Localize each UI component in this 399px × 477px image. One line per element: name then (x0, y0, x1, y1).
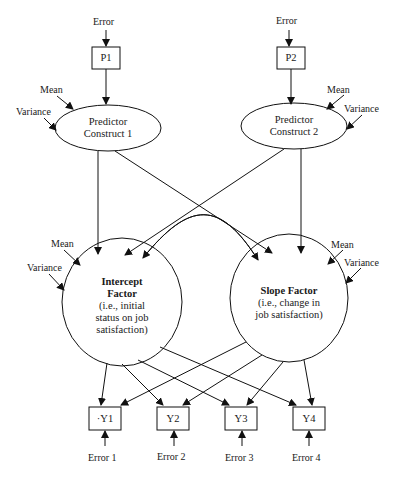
p1-error-label: Error (93, 16, 114, 27)
p2-error-label: Error (276, 15, 297, 26)
slope-factor: Slope Factor (i.e., change in job satisf… (234, 285, 344, 321)
pc2-variance-label: Variance (344, 103, 379, 114)
y3-label: Y3 (225, 413, 257, 425)
error-2-label: Error 2 (157, 451, 186, 462)
pc1-line2: Construct 1 (58, 128, 158, 140)
intercept-mean-label: Mean (51, 238, 74, 249)
slope-variance-label: Variance (344, 257, 379, 268)
intercept-title-1: Intercept (72, 276, 172, 288)
y2-label: Y2 (157, 413, 189, 425)
slope-desc-2: job satisfaction) (234, 309, 344, 321)
intercept-desc-2: status on job (72, 312, 172, 324)
p1-label: P1 (92, 52, 120, 64)
error-3-label: Error 3 (225, 452, 254, 463)
p2-label: P2 (277, 52, 305, 64)
slope-mean-label: Mean (331, 239, 354, 250)
intercept-title-2: Factor (72, 288, 172, 300)
pc2-line2: Construct 2 (244, 126, 344, 138)
slope-title: Slope Factor (234, 285, 344, 297)
y1-label: ·Y1 (89, 413, 121, 425)
intercept-desc-3: satisfaction) (72, 324, 172, 336)
pc2-mean-label: Mean (327, 84, 350, 95)
pc1-mean-label: Mean (40, 84, 63, 95)
pc2-line1: Predictor (244, 114, 344, 126)
pc1-line1: Predictor (58, 116, 158, 128)
intercept-factor: Intercept Factor (i.e., initial status o… (72, 276, 172, 336)
intercept-desc-1: (i.e., initial (72, 300, 172, 312)
error-4-label: Error 4 (292, 452, 321, 463)
slope-desc-1: (i.e., change in (234, 297, 344, 309)
predictor-construct-2: Predictor Construct 2 (244, 114, 344, 138)
predictor-construct-1: Predictor Construct 1 (58, 116, 158, 140)
path-diagram: Error Error P1 P2 Mean Variance Predicto… (0, 0, 399, 477)
y4-label: Y4 (293, 413, 325, 425)
error-1-label: Error 1 (88, 452, 117, 463)
pc1-variance-label: Variance (16, 106, 51, 117)
intercept-variance-label: Variance (27, 262, 62, 273)
